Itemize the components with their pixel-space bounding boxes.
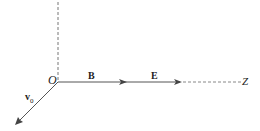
v0-label-sub: 0 <box>30 97 34 105</box>
e-label: E <box>151 71 158 81</box>
diagram: O B E Z v0 <box>0 0 260 131</box>
origin-label: O <box>48 74 57 86</box>
v0-vector <box>17 82 58 123</box>
diagram-lines <box>0 0 260 131</box>
z-label: Z <box>242 76 248 87</box>
b-label: B <box>88 71 95 81</box>
v0-label: v0 <box>25 92 34 105</box>
